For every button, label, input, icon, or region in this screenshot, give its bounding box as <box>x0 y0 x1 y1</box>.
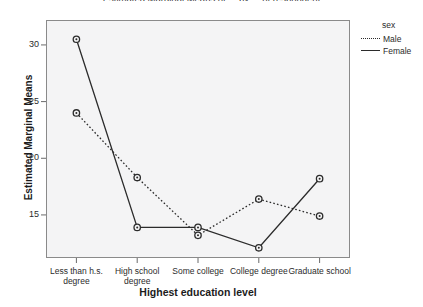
x-axis-tick-label: Some college <box>163 267 233 277</box>
chart-title: Estimated Marginal Means of ... by ... o… <box>0 0 423 1</box>
y-axis-tick-25: 25 <box>13 96 39 106</box>
y-axis-label: Estimated Marginal Means <box>23 48 34 228</box>
chart-container: Estimated Marginal Means of ... by ... o… <box>0 0 423 307</box>
x-axis-label: Highest education level <box>46 286 350 298</box>
y-axis-tick-20: 20 <box>13 152 39 162</box>
legend-item-female: Female <box>361 45 423 56</box>
y-axis-tick-15: 15 <box>13 209 39 219</box>
plot-area <box>46 20 350 258</box>
x-axis-tick-label: Graduate school <box>285 267 355 277</box>
legend-key-male-icon <box>361 38 380 40</box>
x-axis-tick-label: College degree <box>224 267 294 277</box>
y-axis-tick-30: 30 <box>13 39 39 49</box>
legend-label-male: Male <box>383 34 401 44</box>
x-axis-tick-label: High school degree <box>102 267 172 286</box>
legend-item-male: Male <box>361 33 423 44</box>
legend-title: sex <box>382 20 423 30</box>
legend: sex Male Female <box>361 20 423 57</box>
legend-key-female-icon <box>361 50 380 52</box>
x-axis-tick-label: Less than h.s. degree <box>41 267 111 286</box>
legend-label-female: Female <box>383 46 411 56</box>
